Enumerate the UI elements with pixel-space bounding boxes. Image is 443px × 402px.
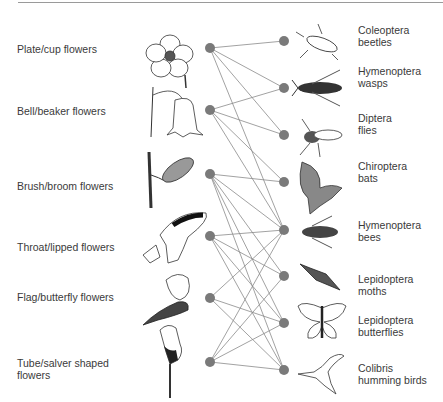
- edge-flag-bees: [210, 230, 284, 298]
- edge-brush-moths: [210, 174, 284, 276]
- pollination-network: [0, 0, 443, 402]
- node-butterflies: [279, 318, 289, 328]
- node-hummingbirds: [279, 365, 289, 375]
- node-tube: [205, 357, 215, 367]
- node-wasps: [279, 83, 289, 93]
- node-bell: [205, 105, 215, 115]
- edge-bell-bats: [210, 110, 284, 182]
- node-bats: [279, 177, 289, 187]
- node-bees: [279, 225, 289, 235]
- node-beetles: [279, 36, 289, 46]
- edge-brush-bats: [210, 174, 284, 182]
- edge-plate-wasps: [210, 48, 284, 88]
- edge-throat-bees: [210, 230, 284, 236]
- node-plate: [205, 43, 215, 53]
- edge-flag-hummingbirds: [210, 298, 284, 370]
- node-moths: [279, 271, 289, 281]
- edge-bell-bees: [210, 110, 284, 230]
- node-throat: [205, 231, 215, 241]
- node-flag: [205, 293, 215, 303]
- node-flies: [279, 130, 289, 140]
- edge-plate-beetles: [210, 41, 284, 48]
- node-brush: [205, 169, 215, 179]
- edge-tube-hummingbirds: [210, 362, 284, 370]
